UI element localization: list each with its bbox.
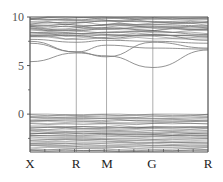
band-cb-lowest bbox=[30, 50, 208, 67]
x-tick-label-M: M bbox=[100, 157, 114, 170]
y-tick-label-5: 5 bbox=[4, 60, 24, 72]
x-tick-label-R2: R bbox=[201, 157, 215, 170]
y-tick-label-0: 0 bbox=[4, 108, 24, 120]
x-tick-label-R: R bbox=[69, 157, 83, 170]
band-structure-chart: 10 5 0 X R M G R bbox=[0, 0, 223, 182]
x-tick-label-X: X bbox=[23, 157, 37, 170]
valence-band-line bbox=[30, 114, 208, 115]
band-cb-4 bbox=[30, 39, 208, 43]
y-tick-label-10: 10 bbox=[4, 11, 24, 23]
valence-band-line bbox=[30, 138, 208, 139]
plot-area bbox=[0, 0, 223, 182]
valence-band-line bbox=[30, 128, 208, 130]
x-tick-label-G: G bbox=[145, 157, 159, 170]
band-cb-2 bbox=[30, 43, 208, 52]
